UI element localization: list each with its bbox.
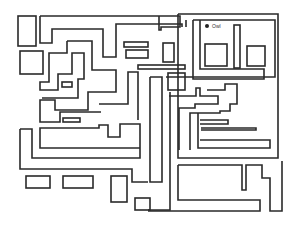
goal-label: Owl: [212, 23, 221, 29]
maze-walls: [0, 0, 296, 228]
goal-marker-icon: [205, 24, 209, 28]
maze-diagram: Owl: [0, 0, 296, 228]
